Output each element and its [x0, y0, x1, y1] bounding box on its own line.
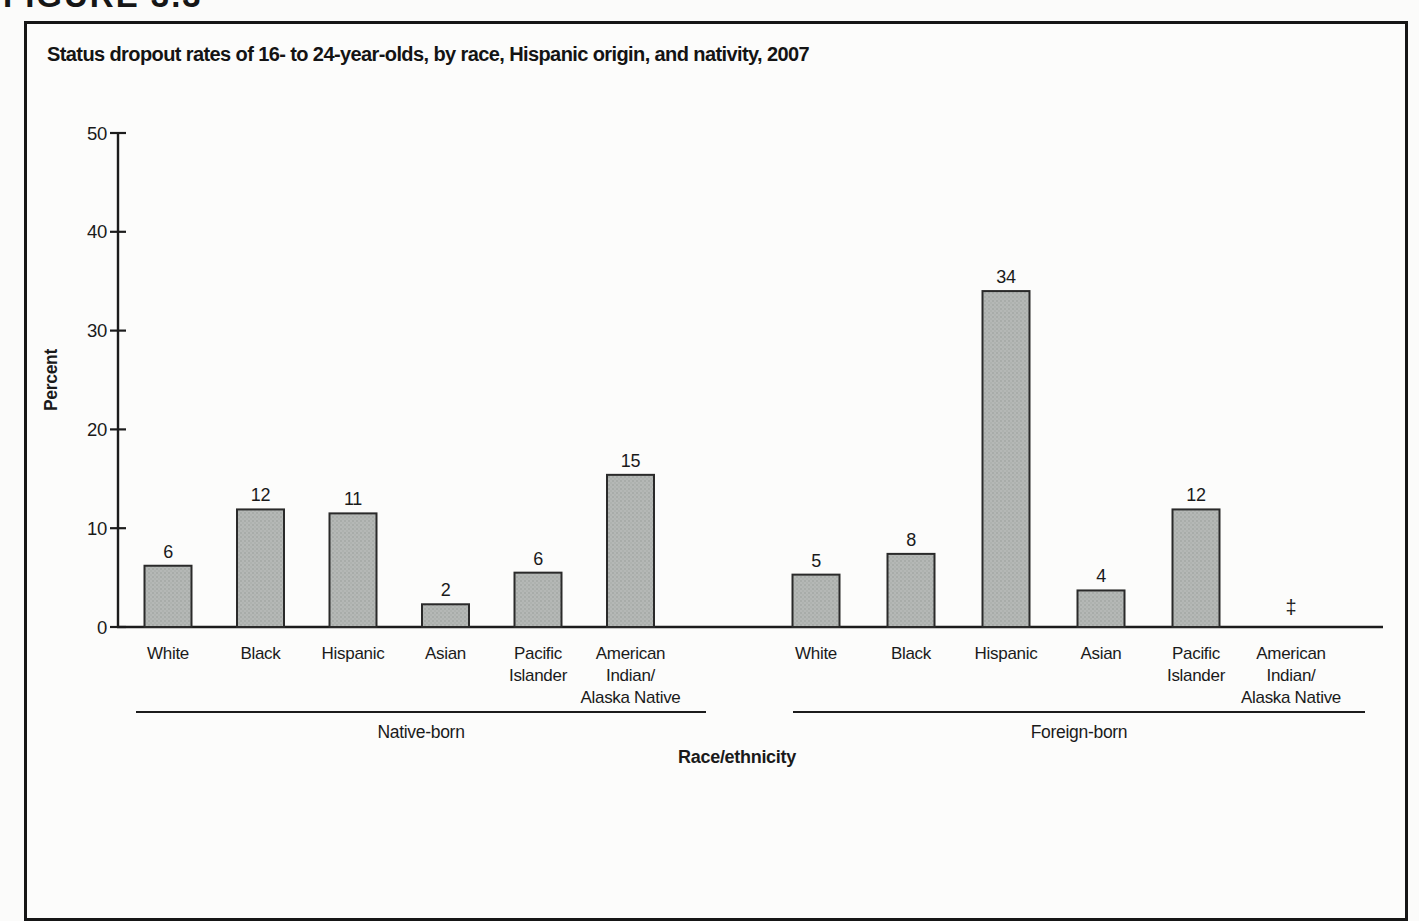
- category-label-foreign-born-american-indian-alaska-native: American: [1256, 644, 1325, 663]
- y-tick-label: 40: [87, 221, 107, 242]
- category-label-native-born-asian: Asian: [425, 644, 466, 663]
- category-label-native-born-pacific-islander: Pacific: [514, 644, 563, 663]
- category-label-native-born-white: White: [147, 644, 189, 663]
- bar-value-label-foreign-born-hispanic: 34: [996, 267, 1016, 287]
- category-label-foreign-born-black: Black: [891, 644, 932, 663]
- y-tick-label: 10: [87, 518, 107, 539]
- chart-layer: 01020304050Percent6White12Black11Hispani…: [41, 123, 1383, 768]
- category-label-foreign-born-american-indian-alaska-native: Indian/: [1267, 666, 1317, 685]
- category-label-foreign-born-white: White: [795, 644, 837, 663]
- bar-native-born-asian: [422, 604, 469, 627]
- bar-foreign-born-hispanic: [983, 291, 1030, 627]
- bar-native-born-white: [145, 566, 192, 627]
- bar-native-born-hispanic: [330, 513, 377, 627]
- suppressed-symbol-foreign-born-american-indian-alaska-native: ‡: [1286, 596, 1297, 618]
- category-label-foreign-born-pacific-islander: Islander: [1167, 666, 1226, 685]
- category-label-native-born-hispanic: Hispanic: [322, 644, 386, 663]
- bar-value-label-foreign-born-asian: 4: [1096, 566, 1106, 586]
- bar-value-label-native-born-asian: 2: [441, 580, 451, 600]
- bar-foreign-born-black: [888, 554, 935, 627]
- category-label-native-born-pacific-islander: Islander: [509, 666, 568, 685]
- category-label-native-born-black: Black: [240, 644, 281, 663]
- x-axis-title: Race/ethnicity: [678, 747, 796, 767]
- bar-foreign-born-white: [793, 575, 840, 627]
- bar-value-label-native-born-pacific-islander: 6: [533, 549, 543, 569]
- y-tick-label: 30: [87, 320, 107, 341]
- bar-native-born-american-indian-alaska-native: [607, 475, 654, 627]
- bar-value-label-native-born-american-indian-alaska-native: 15: [621, 451, 641, 471]
- bar-value-label-native-born-hispanic: 11: [344, 489, 362, 509]
- bar-foreign-born-pacific-islander: [1173, 509, 1220, 627]
- category-label-native-born-american-indian-alaska-native: American: [596, 644, 665, 663]
- group-label-foreign-born: Foreign-born: [1031, 722, 1128, 742]
- bar-value-label-foreign-born-white: 5: [811, 551, 821, 571]
- y-tick-label: 0: [97, 617, 107, 638]
- bar-value-label-native-born-black: 12: [251, 485, 271, 505]
- category-label-foreign-born-hispanic: Hispanic: [975, 644, 1039, 663]
- bar-value-label-foreign-born-pacific-islander: 12: [1186, 485, 1206, 505]
- bar-value-label-native-born-white: 6: [163, 542, 173, 562]
- category-label-native-born-american-indian-alaska-native: Alaska Native: [580, 688, 680, 707]
- category-label-foreign-born-asian: Asian: [1080, 644, 1121, 663]
- y-tick-label: 20: [87, 419, 107, 440]
- bar-value-label-foreign-born-black: 8: [906, 530, 916, 550]
- y-tick-label: 50: [87, 123, 107, 144]
- bar-foreign-born-asian: [1078, 590, 1125, 627]
- category-label-foreign-born-pacific-islander: Pacific: [1172, 644, 1221, 663]
- category-label-native-born-american-indian-alaska-native: Indian/: [606, 666, 656, 685]
- bar-native-born-black: [237, 509, 284, 627]
- y-axis-title: Percent: [41, 348, 61, 411]
- group-label-native-born: Native-born: [377, 722, 464, 742]
- bar-native-born-pacific-islander: [515, 573, 562, 627]
- category-label-foreign-born-american-indian-alaska-native: Alaska Native: [1241, 688, 1341, 707]
